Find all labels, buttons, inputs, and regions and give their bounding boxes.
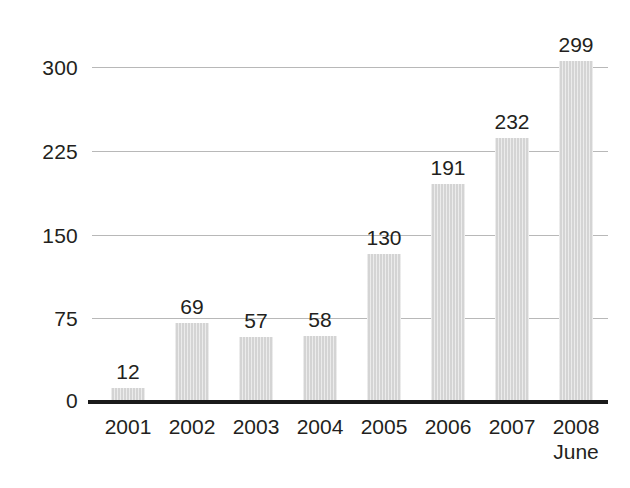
x-axis-label-text: 2007 <box>489 415 536 438</box>
x-axis-label-text: 2008 <box>553 415 600 438</box>
y-axis-tick-label: 225 <box>8 141 78 162</box>
bar-2003[interactable] <box>239 337 273 402</box>
bar-2002[interactable] <box>175 323 209 402</box>
x-axis-label-text: 2003 <box>233 415 280 438</box>
x-axis-label-text: 2006 <box>425 415 472 438</box>
bar-value-label: 299 <box>536 34 616 55</box>
bar-chart: 300 225 150 75 0 12 69 57 58 130 191 <box>0 0 630 488</box>
bar-2008[interactable] <box>559 61 593 402</box>
y-axis-tick-label: 0 <box>8 390 78 411</box>
bar-2007[interactable] <box>495 138 529 402</box>
bar-value-label: 130 <box>344 227 424 248</box>
y-axis-tick-label: 300 <box>8 57 78 78</box>
plot-area: 12 69 57 58 130 191 232 299 <box>92 60 608 402</box>
x-axis-sublabel-june: June <box>536 439 616 465</box>
x-axis-line <box>88 400 608 404</box>
x-axis-label-text: 2005 <box>361 415 408 438</box>
x-axis-label-text: 2001 <box>105 415 152 438</box>
y-axis-tick-label: 150 <box>8 225 78 246</box>
bar-value-label: 12 <box>88 361 168 382</box>
bar-2006[interactable] <box>431 184 465 402</box>
bar-value-label: 191 <box>408 157 488 178</box>
bar-2005[interactable] <box>367 254 401 402</box>
x-axis-label-2008: 2008 June <box>536 414 616 465</box>
y-axis-tick-label: 75 <box>8 308 78 329</box>
x-axis-label-text: 2004 <box>297 415 344 438</box>
x-axis-labels: 2001 2002 2003 2004 2005 2006 2007 2008 … <box>92 414 608 484</box>
x-axis-label-text: 2002 <box>169 415 216 438</box>
bar-value-label: 58 <box>280 309 360 330</box>
bar-value-label: 232 <box>472 111 552 132</box>
bar-2004[interactable] <box>303 336 337 402</box>
